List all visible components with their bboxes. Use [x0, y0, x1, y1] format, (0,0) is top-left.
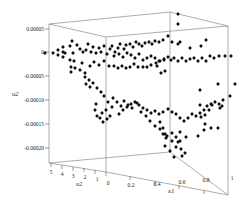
- data-point-diamond: [86, 42, 90, 46]
- z-tick-label: -0.00015: [24, 121, 44, 127]
- x1-tick-label: 0.4: [154, 181, 161, 187]
- data-point-diamond: [199, 115, 203, 119]
- z-tick-label: 0.00005: [26, 26, 44, 32]
- data-point-diamond: [110, 44, 114, 48]
- data-point-diamond: [92, 60, 96, 64]
- data-point-diamond: [108, 47, 112, 51]
- data-point-diamond: [99, 90, 103, 94]
- data-point-diamond: [56, 48, 60, 52]
- data-point-diamond: [72, 59, 76, 63]
- x1-tick-label: 0.6: [179, 179, 186, 185]
- data-point-diamond: [125, 51, 129, 55]
- data-point-diamond: [116, 66, 120, 70]
- data-point-diamond: [198, 111, 202, 115]
- data-point-diamond: [202, 128, 206, 132]
- data-point-diamond: [161, 110, 165, 114]
- data-point-diamond: [157, 112, 161, 116]
- data-point-diamond: [102, 59, 106, 63]
- data-point-diamond: [188, 57, 192, 61]
- data-point-diamond: [132, 62, 136, 66]
- z-tick-label: 0: [41, 49, 44, 55]
- plot-frame: [49, 12, 228, 195]
- x1-tick-label: 0.8: [203, 177, 210, 183]
- data-point-diamond: [145, 108, 149, 112]
- data-point-diamond: [91, 81, 95, 85]
- data-point-diamond: [209, 126, 213, 130]
- x1-tick-label: 1: [231, 175, 234, 181]
- data-point-diamond: [158, 120, 162, 124]
- data-point-diamond: [228, 94, 232, 98]
- data-point-diamond: [176, 59, 180, 63]
- data-point-diamond: [112, 54, 116, 58]
- x1-axis-title: x1: [167, 187, 174, 194]
- data-point-diamond: [153, 39, 157, 43]
- data-point-diamond: [178, 130, 182, 134]
- data-point-diamond: [192, 56, 196, 60]
- data-point-diamond: [170, 131, 174, 135]
- x2-tick-label: 3: [72, 173, 75, 179]
- data-point-diamond: [161, 126, 165, 130]
- data-point-diamond: [190, 112, 194, 116]
- data-point-diamond: [110, 105, 114, 109]
- data-point-diamond: [81, 50, 85, 54]
- data-point-diamond: [106, 100, 110, 104]
- data-point-diamond: [124, 66, 128, 70]
- data-point-diamond: [196, 59, 200, 63]
- data-point-diamond: [216, 126, 220, 130]
- data-point-diamond: [174, 112, 178, 116]
- x1-tick-label: 0.2: [128, 182, 135, 188]
- data-point-diamond: [84, 82, 88, 86]
- data-point-diamond: [141, 58, 145, 62]
- data-point-diamond: [205, 104, 209, 108]
- data-point-diamond: [84, 48, 88, 52]
- data-point-diamond: [95, 114, 99, 118]
- data-point-diamond: [137, 52, 141, 56]
- data-point-diamond: [71, 51, 75, 55]
- data-point-diamond: [78, 47, 82, 51]
- data-point-diamond: [93, 108, 97, 112]
- data-point-diamond: [112, 64, 116, 68]
- data-point-diamond: [100, 111, 104, 115]
- data-point-diamond: [136, 65, 140, 69]
- data-point-diamond: [117, 52, 121, 56]
- z-tick-label: -0.00005: [24, 73, 44, 79]
- z-tick-label: -0.00020: [24, 145, 44, 151]
- data-point-diamond: [204, 38, 208, 42]
- data-point-diamond: [141, 65, 145, 69]
- data-point-diamond: [78, 68, 82, 72]
- x2-axis: 5 4 3 2 1 0 x2: [50, 163, 110, 187]
- data-point-diamond: [113, 50, 117, 54]
- data-point-diamond: [129, 53, 133, 57]
- data-point-diamond: [163, 144, 167, 148]
- data-point-diamond: [68, 44, 72, 48]
- data-point-diamond: [51, 51, 55, 55]
- z-axis: 0.00005 0 -0.00005 -0.00010 -0.00015 -0.…: [12, 26, 49, 151]
- data-point-diamond: [212, 56, 216, 60]
- data-point-diamond: [176, 12, 180, 16]
- data-point-diamond: [149, 63, 153, 67]
- data-point-diamond: [102, 94, 106, 98]
- data-point-diamond: [198, 88, 202, 92]
- data-point-diamond: [128, 42, 132, 46]
- data-point-diamond: [203, 113, 207, 117]
- data-point-diamond: [153, 124, 157, 128]
- data-point-diamond: [118, 42, 122, 46]
- x2-tick-label: 2: [84, 174, 87, 180]
- data-point-diamond: [158, 127, 162, 131]
- data-point-diamond: [83, 71, 87, 75]
- data-point-diamond: [145, 65, 149, 69]
- data-point-diamond: [119, 104, 123, 108]
- data-point-diamond: [98, 116, 102, 120]
- data-point-diamond: [88, 64, 92, 68]
- data-point-diamond: [188, 46, 192, 50]
- data-point-diamond: [170, 40, 174, 44]
- data-point-diamond: [161, 38, 165, 42]
- data-point-diamond: [121, 55, 125, 59]
- data-point-diamond: [198, 103, 202, 107]
- data-point-diamond: [207, 108, 211, 112]
- data-point-diamond: [134, 40, 138, 44]
- x1-axis: 0.2 0.4 0.6 0.8 1 x1: [128, 175, 234, 194]
- data-point-diamond: [115, 100, 119, 104]
- data-point-diamond: [149, 54, 153, 58]
- data-point-diamond: [56, 53, 60, 57]
